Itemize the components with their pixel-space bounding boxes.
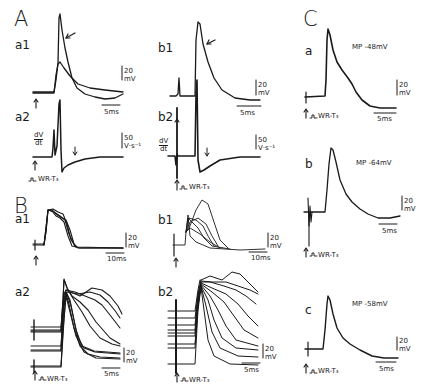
subpanel-label-C-c: c (305, 304, 312, 316)
stim-arrow-C-b (304, 248, 308, 257)
stim-label-C-a: WR-T₃ (318, 113, 338, 120)
scale-v-value: 20 (404, 197, 413, 205)
scale-v-unit: mV (128, 242, 140, 250)
stim-arrow-C-c (304, 364, 308, 373)
arrow-A-a1 (66, 33, 75, 38)
stim-label-B-a2: WR-T₃ (47, 376, 67, 383)
stim-arrow-C-a (304, 109, 308, 118)
stim-pulse-B-a (39, 377, 46, 380)
scale-t-C-a: 5ms (377, 115, 392, 123)
panel-label-A: A (14, 9, 28, 30)
stim-arrow-B-b2 (175, 373, 179, 382)
trace-A-a1 (33, 14, 123, 99)
scale-v-unit: mV (126, 357, 138, 365)
scale-v-value: 20 (399, 337, 408, 345)
trace-B-b1 (173, 200, 265, 256)
scale-v-value: 20 (126, 349, 135, 357)
subpanel-label-A-b2: b2 (158, 111, 173, 123)
subpanel-label-C-b: b (305, 158, 313, 170)
scale-v-A-b1: 20mV (258, 81, 270, 97)
subpanel-label-B-b2: b2 (158, 286, 173, 298)
subpanel-label-B-a1: a1 (15, 213, 30, 225)
stim-pulse-C-b (310, 253, 317, 256)
arrow-A-b1 (207, 40, 215, 44)
scale-v-unit: V·s⁻¹ (124, 142, 141, 150)
arrow-A-a2 (73, 147, 77, 155)
mp-label-C-b: MP -64mV (356, 160, 392, 167)
stim-pulse-B-b (181, 378, 188, 381)
scale-v-value: 20 (270, 234, 279, 242)
stim-arrow-A-b2 (175, 180, 179, 190)
stim-label-A-a2: WR-T₃ (38, 176, 58, 183)
stim-label-C-b: WR-T₃ (318, 252, 338, 259)
trace-A-b2 (168, 80, 260, 178)
scale-v-C-b: 20mV (404, 197, 416, 213)
scale-v-B-a2: 20mV (126, 349, 138, 365)
scale-v-value: 50 (124, 134, 133, 142)
dvdt-denominator: dt (160, 145, 167, 153)
scale-v-value: 20 (399, 81, 408, 89)
arrow-A-b2 (205, 148, 209, 156)
subpanel-label-C-a: a (305, 45, 312, 57)
stim-arrow-B-b1 (174, 258, 178, 267)
stim-pulse-A (29, 178, 36, 181)
trace-A-b1 (170, 22, 260, 100)
scalebar-B-a1 (106, 233, 126, 253)
scale-v-A-b2: 50V·s⁻¹ (258, 136, 275, 152)
trace-B-a2 (31, 279, 122, 372)
scale-t-B-b2: 5ms (244, 366, 259, 374)
stim-label-B-b2: WR-T₃ (189, 377, 209, 384)
scale-v-unit: mV (265, 353, 277, 361)
scale-v-unit: mV (258, 89, 270, 97)
trace-B-b2 (168, 272, 258, 373)
scale-v-unit: V·s⁻¹ (258, 144, 275, 152)
scale-t-B-a2: 5ms (104, 370, 119, 378)
dvdt-denominator: dt (35, 139, 42, 147)
scale-v-C-a: 20mV (399, 81, 411, 97)
stim-label-C-c: WR-T₃ (318, 368, 338, 375)
stim-label-A-b2: WR-T₃ (189, 184, 209, 191)
scale-v-A-a2: 50V·s⁻¹ (124, 134, 141, 150)
dvdt-label-A-b: dVdt (159, 137, 168, 153)
scale-v-B-b1: 20mV (270, 234, 282, 250)
panel-label-C: C (303, 9, 318, 30)
mp-label-C-c: MP -58mV (352, 301, 388, 308)
stim-arrow-B-a1 (34, 256, 38, 265)
scale-t-A-a1: 5ms (104, 108, 119, 116)
trace-B-a1 (33, 209, 123, 250)
scale-t-C-b: 5ms (382, 227, 397, 235)
scale-v-value: 50 (258, 136, 267, 144)
scale-v-unit: mV (404, 205, 416, 213)
scalebar-C-b (379, 196, 402, 224)
scale-v-unit: mV (399, 345, 411, 353)
scalebar-B-b2 (242, 344, 263, 363)
scale-v-A-a1: 20mV (124, 67, 136, 83)
scale-v-B-b2: 20mV (265, 345, 277, 361)
scale-v-value: 20 (124, 67, 133, 75)
scale-v-unit: mV (124, 75, 136, 83)
stim-pulse-C-a (310, 115, 317, 118)
scale-v-B-a1: 20mV (128, 234, 140, 250)
scale-t-B-b1: 10ms (251, 254, 270, 262)
dvdt-label-A: dVdt (34, 131, 43, 147)
subpanel-label-A-a2: a2 (15, 111, 30, 123)
stim-pulse-A-b (180, 186, 187, 189)
scale-v-value: 20 (265, 345, 274, 353)
trace-C-a (305, 29, 396, 108)
scale-v-value: 20 (258, 81, 267, 89)
scale-v-unit: mV (399, 89, 411, 97)
stim-arrow-A-a1 (34, 99, 38, 108)
mp-label-C-a: MP -48mV (352, 44, 388, 51)
subpanel-label-B-b1: b1 (158, 214, 173, 226)
scale-v-C-c: 20mV (399, 337, 411, 353)
stim-arrow-A-a2 (33, 161, 37, 170)
stim-pulse-C-c (310, 370, 317, 373)
subpanel-label-A-b1: b1 (158, 42, 173, 54)
stim-arrow-B-a2 (33, 371, 37, 380)
subpanel-label-B-a2: a2 (15, 286, 30, 298)
scale-t-C-c: 5ms (379, 365, 394, 373)
scale-v-value: 20 (128, 234, 137, 242)
subpanel-label-A-a1: a1 (15, 39, 30, 51)
figure-traces (0, 0, 427, 387)
scale-t-B-a1: 10ms (107, 255, 126, 263)
